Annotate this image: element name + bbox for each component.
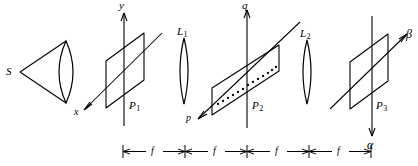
plane-P1-label: P1	[129, 100, 140, 113]
alpha-axis-label: α	[367, 139, 373, 151]
y-axis-line	[121, 13, 127, 126]
plane-P1-letter: P	[129, 99, 136, 111]
focal-segment-label-4: f	[337, 146, 340, 156]
focal-segment-label-1: f	[151, 146, 154, 156]
plane-P1-quad	[106, 33, 144, 108]
plane-P3-label: P3	[376, 100, 387, 113]
focal-segment-label-2: f	[213, 146, 216, 156]
x-axis-line	[84, 33, 162, 110]
beta-axis-label: β	[406, 28, 412, 40]
y-axis-label: y	[119, 0, 124, 11]
x-axis-label: x	[74, 107, 78, 117]
plane-P2-letter: P	[252, 99, 259, 111]
diagram-canvas	[0, 0, 418, 166]
lens-L1-label: L1	[177, 26, 188, 39]
plane-P2-label: P2	[252, 100, 263, 113]
lens-L2-shape	[303, 40, 311, 104]
lens-L2-subscript: 2	[306, 32, 310, 41]
optical-system-diagram: S y x P1 L1 q p P2 L2 β α P3 f f f f	[0, 0, 418, 166]
beta-axis-line	[330, 34, 407, 109]
plane-P3-subscript: 3	[383, 104, 387, 113]
source-label: S	[6, 66, 12, 77]
plane-P1-group	[84, 13, 162, 126]
lens-L2-label: L2	[300, 28, 311, 41]
lens-L1-shape	[180, 38, 188, 104]
plane-P2-subscript: 2	[259, 104, 263, 113]
plane-P3-letter: P	[376, 99, 383, 111]
q-axis-line	[244, 10, 250, 128]
condenser-lens	[59, 41, 73, 103]
plane-P1-subscript: 1	[136, 104, 140, 113]
q-axis-label: q	[242, 0, 248, 11]
p-axis-label: p	[186, 113, 191, 123]
lens-L1-subscript: 1	[183, 30, 187, 39]
plane-P3-group	[330, 16, 407, 136]
focal-segment-label-3: f	[275, 146, 278, 156]
plane-P2-group	[198, 10, 300, 128]
plane-P2-quad	[212, 45, 279, 115]
p-axis-line	[198, 22, 300, 119]
dimension-bar-graphics	[123, 145, 371, 158]
alpha-axis-line	[369, 16, 375, 136]
